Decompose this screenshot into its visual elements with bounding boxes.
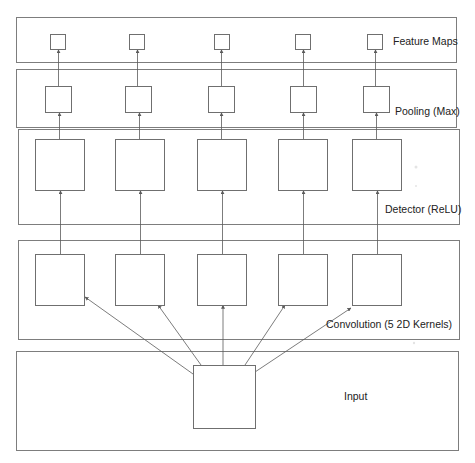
detector-node-2 — [116, 140, 165, 191]
pooling-node-4 — [291, 87, 317, 113]
panel-label-feature-maps: Feature Maps — [393, 35, 458, 47]
cnn-stage-diagram: Feature MapsPooling (Max)Detector (ReLU)… — [0, 0, 475, 463]
feature-maps-node-2 — [130, 35, 145, 50]
convolution-node-5 — [353, 255, 402, 306]
convolution-node-4 — [279, 255, 328, 306]
feature-maps-node-5 — [368, 35, 383, 50]
panel-pooling — [17, 70, 457, 128]
pooling-node-2 — [126, 87, 152, 113]
convolution-node-2 — [116, 255, 165, 306]
panel-label-detector: Detector (ReLU) — [385, 203, 461, 215]
panel-feature-maps — [17, 18, 457, 63]
detector-node-3 — [198, 140, 247, 191]
panel-label-pooling: Pooling (Max) — [395, 105, 460, 117]
input-node — [194, 366, 256, 429]
feature-maps-node-1 — [51, 35, 66, 50]
pooling-node-1 — [46, 87, 72, 113]
feature-maps-node-4 — [296, 35, 311, 50]
panel-label-convolution: Convolution (5 2D Kernels) — [326, 318, 452, 330]
feature-maps-node-3 — [215, 35, 230, 50]
detector-node-5 — [353, 140, 402, 191]
detector-node-1 — [36, 140, 85, 191]
pooling-node-5 — [364, 87, 390, 113]
convolution-node-3 — [198, 255, 247, 306]
detector-node-4 — [279, 140, 328, 191]
convolution-node-1 — [36, 255, 85, 306]
pooling-node-3 — [209, 87, 235, 113]
panel-label-input: Input — [344, 390, 367, 402]
